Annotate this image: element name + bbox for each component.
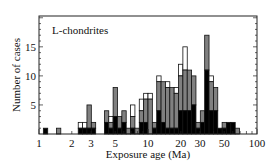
bar-segment-white — [157, 76, 161, 82]
bar-segment-white — [139, 99, 143, 111]
bar-segment-white — [148, 93, 152, 99]
bar-segment-white — [144, 93, 148, 99]
bar-segment-gray — [126, 128, 130, 134]
bar-segment-gray — [56, 128, 60, 134]
bar-segment-white — [78, 122, 82, 128]
bar-segment-gray — [200, 111, 204, 123]
histogram-chart: 51015 123510203050100 L-chondrites Expos… — [0, 0, 277, 168]
bar-segment-black — [209, 111, 213, 134]
bar-segment-gray — [170, 88, 174, 129]
bar-segment-black — [161, 122, 165, 134]
y-tick-label: 5 — [31, 99, 37, 111]
bar-segment-black — [78, 128, 82, 134]
bar-segment-gray — [209, 82, 213, 111]
bar-segment-black — [83, 128, 87, 134]
y-tick-label: 10 — [25, 70, 37, 82]
bar-segment-gray — [174, 93, 178, 128]
bar-segment-white — [131, 105, 135, 117]
bar-segment-gray — [179, 76, 183, 111]
bar-segment-black — [192, 105, 196, 134]
bar-segment-black — [213, 111, 217, 134]
bar-segment-black — [170, 128, 174, 134]
bar-segment-black — [144, 122, 148, 134]
bar-segment-black — [43, 128, 47, 134]
bar-segment-black — [157, 111, 161, 134]
bar-segment-gray — [122, 111, 126, 123]
histogram-bars — [43, 35, 239, 134]
bar-segment-gray — [192, 76, 196, 105]
bar-segment-gray — [183, 70, 187, 111]
bar-segment-white — [109, 117, 113, 123]
bar-segment-black — [187, 111, 191, 134]
x-tick-label: 30 — [195, 137, 207, 149]
bar-segment-gray — [144, 99, 148, 122]
bar-segment-black — [179, 111, 183, 134]
bar-segment-gray — [91, 122, 95, 128]
bar-segment-gray — [117, 117, 121, 129]
y-axis-label: Number of cases — [10, 38, 22, 112]
bar-segment-gray — [87, 105, 91, 128]
x-axis-label: Exposure age (Ma) — [106, 148, 191, 161]
bar-segment-white — [83, 122, 87, 128]
y-tick-label: 15 — [25, 41, 37, 53]
bar-segment-gray — [187, 70, 191, 111]
bar-segment-gray — [213, 88, 217, 111]
bar-segment-gray — [152, 122, 156, 128]
bar-segment-gray — [165, 88, 169, 129]
bar-segment-black — [165, 128, 169, 134]
bar-segment-gray — [139, 111, 143, 123]
bar-segment-black — [218, 128, 222, 134]
bar-segment-black — [152, 128, 156, 134]
bar-segment-gray — [222, 122, 226, 128]
bar-segment-gray — [161, 82, 165, 123]
bar-segment-gray — [104, 111, 108, 123]
x-tick-label: 1 — [36, 137, 42, 149]
bar-segment-black — [226, 122, 230, 134]
bar-segment-white — [174, 88, 178, 94]
bar-segment-white — [183, 47, 187, 70]
bar-segment-black — [117, 128, 121, 134]
x-tick-label: 3 — [88, 137, 94, 149]
bar-segment-black — [205, 70, 209, 134]
bar-segment-gray — [113, 88, 117, 117]
bar-segment-white — [209, 76, 213, 82]
bar-segment-gray — [131, 117, 135, 129]
bar-segment-gray — [235, 128, 239, 134]
bar-segment-gray — [109, 122, 113, 128]
bar-segment-gray — [205, 35, 209, 70]
bar-segment-gray — [196, 122, 200, 128]
bar-segment-gray — [157, 82, 161, 111]
bar-segment-white — [165, 82, 169, 88]
bar-segment-black — [104, 122, 108, 134]
bar-segment-white — [179, 64, 183, 76]
x-tick-label: 100 — [249, 137, 266, 149]
bar-segment-black — [109, 128, 113, 134]
bar-segment-black — [91, 128, 95, 134]
bar-segment-black — [200, 122, 204, 134]
chart-title: L-chondrites — [52, 24, 108, 36]
x-tick-label: 50 — [219, 137, 231, 149]
bar-segment-gray — [148, 99, 152, 134]
x-tick-label: 2 — [69, 137, 75, 149]
bar-segment-black — [174, 128, 178, 134]
bar-segment-black — [183, 111, 187, 134]
